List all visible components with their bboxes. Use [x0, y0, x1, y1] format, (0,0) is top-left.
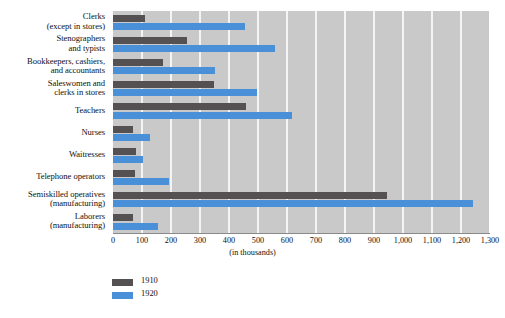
x-tick-1100: 1,100 — [423, 236, 441, 245]
category-label-2: Bookkeepers, cashiers,and accountants — [0, 57, 105, 76]
bar-1920-9 — [113, 223, 158, 230]
legend-label-1920: 1920 — [141, 289, 158, 298]
bar-1920-6 — [113, 156, 143, 163]
bar-1920-4 — [113, 112, 292, 119]
x-tick-200: 200 — [165, 236, 177, 245]
x-tick-700: 700 — [310, 236, 322, 245]
category-label-5: Nurses — [0, 128, 105, 137]
category-label-3: Saleswomen andclerks in stores — [0, 79, 105, 98]
chart-figure: Clerks(except in stores)Stenographersand… — [0, 0, 505, 318]
bar-1910-0 — [113, 15, 145, 22]
bar-1910-4 — [113, 103, 246, 110]
category-label-6: Waitresses — [0, 150, 105, 159]
bar-1910-9 — [113, 214, 133, 221]
gridline-1300 — [489, 11, 490, 233]
bar-1920-7 — [113, 178, 169, 185]
bar-1910-8 — [113, 192, 387, 199]
category-label-8: Semiskilled operatives(manufacturing) — [0, 190, 105, 209]
bar-1920-5 — [113, 134, 150, 141]
x-tick-1200: 1,200 — [452, 236, 470, 245]
bar-1910-7 — [113, 170, 135, 177]
bar-1910-5 — [113, 126, 133, 133]
bar-1920-1 — [113, 45, 275, 52]
bar-1920-2 — [113, 67, 215, 74]
chart-legend: 1910 1920 — [112, 276, 232, 302]
bar-1920-0 — [113, 23, 245, 30]
bar-1910-3 — [113, 81, 214, 88]
category-label-4: Teachers — [0, 106, 105, 115]
x-axis-line — [113, 233, 490, 234]
x-tick-300: 300 — [194, 236, 206, 245]
bar-1920-8 — [113, 200, 473, 207]
legend-item-1910: 1910 — [112, 276, 232, 289]
x-tick-900: 900 — [368, 236, 380, 245]
category-axis-labels: Clerks(except in stores)Stenographersand… — [0, 11, 109, 233]
x-tick-0: 0 — [111, 236, 115, 245]
legend-swatch-1920 — [112, 292, 133, 299]
category-label-1: Stenographersand typists — [0, 34, 105, 53]
plot-area — [113, 11, 490, 233]
legend-label-1910: 1910 — [141, 276, 158, 285]
legend-item-1920: 1920 — [112, 289, 232, 302]
legend-swatch-1910 — [112, 279, 133, 286]
x-tick-1300: 1,300 — [481, 236, 499, 245]
bar-1920-3 — [113, 89, 257, 96]
x-axis-title: (in thousands) — [0, 248, 505, 257]
x-tick-1000: 1,000 — [394, 236, 412, 245]
x-tick-600: 600 — [281, 236, 293, 245]
category-label-0: Clerks(except in stores) — [0, 12, 105, 31]
x-tick-400: 400 — [223, 236, 235, 245]
bar-1910-2 — [113, 59, 163, 66]
x-tick-100: 100 — [136, 236, 148, 245]
x-tick-800: 800 — [339, 236, 351, 245]
x-tick-500: 500 — [252, 236, 264, 245]
category-label-7: Telephone operators — [0, 172, 105, 181]
bar-1910-1 — [113, 37, 187, 44]
category-label-9: Laborers(manufacturing) — [0, 212, 105, 231]
bar-1910-6 — [113, 148, 136, 155]
